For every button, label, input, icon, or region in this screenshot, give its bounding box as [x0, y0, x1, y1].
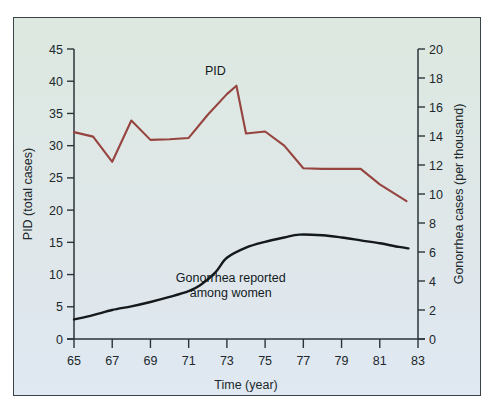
left-axis-tick-label: 0 — [56, 333, 63, 347]
bottom-axis: 65676971737577798183 — [67, 339, 425, 368]
left-axis-tick-label: 30 — [49, 139, 63, 153]
line-chart: 051015202530354045 02468101214161820 656… — [14, 18, 479, 394]
bottom-axis-tick-label: 83 — [411, 354, 425, 368]
gonorrhea-series-annotation-line2: among women — [190, 286, 272, 300]
bottom-axis-tick-label: 79 — [335, 354, 349, 368]
left-axis-tick-label: 40 — [49, 75, 63, 89]
right-axis: 02468101214161820 — [418, 43, 443, 347]
y-axis-title: PID (total cases) — [21, 148, 35, 240]
left-axis-tick-label: 20 — [49, 204, 63, 218]
left-axis-tick-label: 25 — [49, 171, 63, 185]
x-axis-title: Time (year) — [214, 378, 277, 392]
series-annotations: PIDGonorrhea reportedamong women — [176, 64, 286, 301]
bottom-axis-tick-label: 71 — [182, 354, 196, 368]
right-axis-tick-label: 0 — [429, 333, 436, 347]
left-axis-tick-label: 35 — [49, 107, 63, 121]
right-axis-tick-label: 2 — [429, 304, 436, 318]
gonorrhea-series-annotation-line1: Gonorrhea reported — [176, 271, 286, 285]
bottom-axis-tick-label: 67 — [105, 354, 119, 368]
bottom-axis-tick-label: 65 — [67, 354, 81, 368]
left-axis-tick-label: 10 — [49, 268, 63, 282]
pid-series-annotation: PID — [205, 64, 226, 78]
right-axis-tick-label: 20 — [429, 43, 443, 57]
right-axis-tick-label: 10 — [429, 188, 443, 202]
bottom-axis-tick-label: 81 — [373, 354, 387, 368]
right-axis-tick-label: 4 — [429, 275, 436, 289]
bottom-axis-tick-label: 73 — [220, 354, 234, 368]
right-axis-tick-label: 16 — [429, 101, 443, 115]
left-axis: 051015202530354045 — [49, 43, 74, 347]
right-axis-tick-label: 18 — [429, 72, 443, 86]
chart-frame: 051015202530354045 02468101214161820 656… — [13, 17, 481, 396]
left-axis-tick-label: 5 — [56, 300, 63, 314]
left-axis-tick-label: 45 — [49, 43, 63, 57]
left-axis-tick-label: 15 — [49, 236, 63, 250]
right-axis-tick-label: 6 — [429, 246, 436, 260]
y2-axis-title: Gonorrhea cases (per thousand) — [452, 104, 466, 285]
bottom-axis-tick-label: 75 — [258, 354, 272, 368]
bottom-axis-tick-label: 69 — [143, 354, 157, 368]
series-line-pid — [74, 86, 407, 201]
bottom-axis-tick-label: 77 — [296, 354, 310, 368]
right-axis-tick-label: 12 — [429, 159, 443, 173]
right-axis-tick-label: 8 — [429, 217, 436, 231]
right-axis-tick-label: 14 — [429, 130, 443, 144]
figure-root: 051015202530354045 02468101214161820 656… — [0, 0, 494, 417]
